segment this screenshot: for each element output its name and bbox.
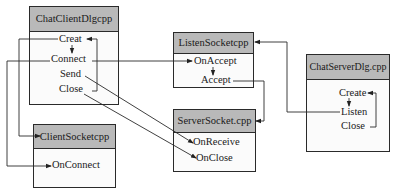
- method-onreceive: OnReceive: [193, 136, 240, 147]
- client-socket-box: ClientSocketcpp: [33, 124, 116, 188]
- method-connect: Connect: [51, 53, 86, 64]
- chat-server-dlg-box: ChatServerDlg.cpp: [306, 54, 390, 152]
- listen-socket-title: ListenSocketcpp: [174, 33, 253, 54]
- method-listen: Listen: [341, 106, 367, 117]
- method-accept: Accept: [201, 74, 231, 85]
- method-creat: Creat: [59, 33, 82, 44]
- method-send: Send: [60, 68, 81, 79]
- client-socket-title: ClientSocketcpp: [34, 125, 115, 149]
- chat-client-dlg-title: ChatClientDlgcpp: [30, 7, 118, 32]
- chat-server-dlg-title: ChatServerDlg.cpp: [307, 55, 389, 80]
- method-close-server: Close: [341, 120, 365, 131]
- method-close-client: Close: [59, 83, 83, 94]
- method-create: Create: [339, 87, 366, 98]
- server-socket-title: ServerSocket.cpp: [174, 110, 255, 133]
- method-onconnect: OnConnect: [52, 159, 100, 170]
- method-onclose: OnClose: [196, 152, 233, 163]
- method-onaccept: OnAccept: [194, 55, 237, 66]
